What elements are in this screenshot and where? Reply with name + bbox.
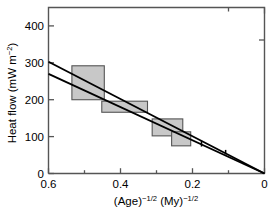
x-title-age-exp-num: 1/2 — [146, 194, 157, 203]
x-axis-top-ticks — [229, 8, 265, 41]
x-tick-label-0p6: 0.6 — [41, 178, 57, 190]
heat-flow-chart-figure: 0 100 200 300 400 0.6 0.4 0.2 0 (Age)−1/… — [0, 0, 276, 211]
fit-line-lower — [49, 74, 265, 174]
data-boxes — [72, 66, 191, 146]
x-axis-title: (Age)−1/2 (My)−1/2 — [114, 194, 198, 207]
x-title-my-base: (My) — [157, 195, 183, 207]
y-tick-label-100: 100 — [25, 131, 44, 143]
x-tick-label-0p4: 0.4 — [113, 178, 130, 190]
chart-canvas: 0 100 200 300 400 0.6 0.4 0.2 0 (Age)−1/… — [0, 0, 276, 211]
fit-line-upper — [49, 62, 265, 174]
fit-lines — [49, 62, 265, 174]
x-tick-labels: 0.6 0.4 0.2 0 — [41, 178, 268, 190]
x-axis-ticks — [49, 168, 265, 173]
y-tick-labels: 0 100 200 300 400 — [25, 20, 44, 179]
y-title-base: Heat flow (mW m — [6, 55, 18, 143]
box-2 — [102, 101, 148, 112]
y-tick-label-400: 400 — [25, 20, 44, 32]
y-tick-label-300: 300 — [25, 57, 44, 69]
svg-text:(Age)−1/2 (My)−1/2: (Age)−1/2 (My)−1/2 — [114, 194, 198, 207]
y-axis-ticks — [49, 26, 55, 174]
x-tick-label-0: 0 — [261, 178, 267, 190]
y-tick-label-200: 200 — [25, 94, 44, 106]
svg-text:Heat flow (mW m−2): Heat flow (mW m−2) — [5, 43, 18, 144]
x-title-age-base: (Age) — [114, 195, 142, 207]
x-title-my-exp-num: 1/2 — [188, 194, 199, 203]
y-axis-title: Heat flow (mW m−2) — [5, 43, 18, 144]
x-tick-label-0p2: 0.2 — [185, 178, 201, 190]
y-title-close: ) — [6, 43, 18, 47]
